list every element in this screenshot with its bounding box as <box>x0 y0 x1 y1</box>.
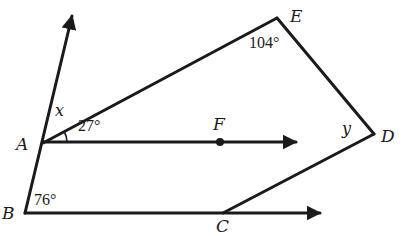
geometry-diagram: A B C D E F x y 27° 104° 76° <box>0 0 408 236</box>
segment-DC <box>223 134 374 213</box>
label-angle-76: 76° <box>34 191 56 208</box>
label-D: D <box>380 126 395 146</box>
label-angle-27: 27° <box>78 117 100 134</box>
label-F: F <box>212 114 226 134</box>
segment-ED <box>277 18 374 134</box>
ray-BA <box>25 16 72 213</box>
angle-arc-EAF <box>64 131 67 142</box>
label-angle-104: 104° <box>249 34 279 51</box>
label-E: E <box>289 6 303 26</box>
label-A: A <box>14 134 28 154</box>
label-B: B <box>1 203 15 223</box>
label-angle-y: y <box>341 119 352 138</box>
point-F-dot <box>216 138 224 146</box>
label-C: C <box>216 216 229 236</box>
label-angle-x: x <box>55 101 64 120</box>
